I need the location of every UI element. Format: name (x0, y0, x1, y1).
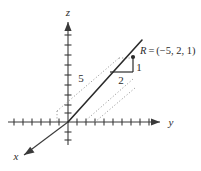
point-label-equals: = (148, 45, 154, 56)
y-axis-label: y (168, 116, 174, 128)
figure-container: y z x (0, 0, 201, 171)
coordinate-figure: y z x (0, 0, 201, 171)
measure-label-2: 2 (118, 74, 124, 86)
x-axis-group: x (13, 122, 68, 162)
point-label-coordinates: (−5, 2, 1) (156, 45, 196, 57)
z-axis-label: z (65, 6, 71, 18)
z-axis-arrowhead (64, 22, 71, 31)
x-axis-label: x (13, 150, 19, 162)
guide-line-lower-2 (95, 88, 135, 122)
guide-line-lower (84, 79, 133, 122)
measure-label-5: 5 (78, 72, 84, 84)
point-label-name: R (139, 45, 147, 56)
y-axis-arrowhead (151, 118, 160, 125)
component-segments-group (110, 58, 133, 72)
point-marker-r (131, 55, 135, 59)
point-label-r: R=(−5, 2, 1) (139, 45, 196, 57)
measure-label-1: 1 (136, 61, 142, 73)
